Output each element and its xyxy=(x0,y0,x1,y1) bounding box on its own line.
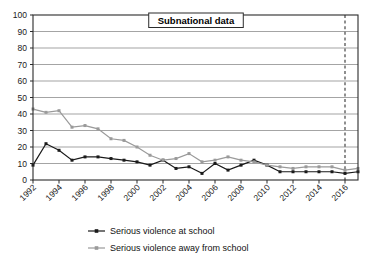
legend-label: Serious violence away from school xyxy=(110,243,249,253)
data-point-marker xyxy=(305,165,308,168)
data-point-marker xyxy=(45,111,48,114)
data-point-marker xyxy=(266,164,269,167)
data-point-marker xyxy=(110,137,113,140)
data-point-marker xyxy=(292,167,295,170)
data-point-marker xyxy=(318,165,321,168)
data-point-marker xyxy=(201,160,204,163)
data-point-marker xyxy=(110,157,113,160)
y-tick-label: 20 xyxy=(18,142,28,152)
data-point-marker xyxy=(214,162,217,165)
y-tick-label: 50 xyxy=(18,93,28,103)
data-point-marker xyxy=(227,169,230,172)
data-point-marker xyxy=(84,124,87,127)
data-point-marker xyxy=(318,170,321,173)
data-point-marker xyxy=(279,170,282,173)
data-point-marker xyxy=(175,157,178,160)
y-tick-label: 70 xyxy=(18,60,28,70)
data-point-marker xyxy=(292,170,295,173)
chart-title-group: Subnational data xyxy=(149,13,244,28)
data-point-marker xyxy=(175,167,178,170)
y-tick-label: 90 xyxy=(18,27,28,37)
data-point-marker xyxy=(188,165,191,168)
y-tick-label: 30 xyxy=(18,126,28,136)
y-tick-label: 0 xyxy=(22,175,27,185)
y-tick-label: 10 xyxy=(18,159,28,169)
legend-label: Serious violence at school xyxy=(110,226,215,236)
data-point-marker xyxy=(45,142,48,145)
data-point-marker xyxy=(58,149,61,152)
legend-item: Serious violence away from school xyxy=(88,243,249,253)
data-point-marker xyxy=(201,172,204,175)
y-tick-label: 80 xyxy=(18,43,28,53)
data-point-marker xyxy=(188,152,191,155)
data-point-marker xyxy=(58,109,61,112)
y-tick-label: 100 xyxy=(13,10,27,20)
data-point-marker xyxy=(123,159,126,162)
data-point-marker xyxy=(279,165,282,168)
legend-marker xyxy=(95,229,99,233)
data-point-marker xyxy=(305,170,308,173)
y-tick-label: 60 xyxy=(18,76,28,86)
data-point-marker xyxy=(344,172,347,175)
data-point-marker xyxy=(240,164,243,167)
y-tick-label: 40 xyxy=(18,109,28,119)
data-point-marker xyxy=(123,139,126,142)
data-point-marker xyxy=(240,159,243,162)
data-point-marker xyxy=(331,165,334,168)
data-point-marker xyxy=(71,159,74,162)
line-chart: 0102030405060708090100 19921994199619982… xyxy=(0,0,391,261)
data-point-marker xyxy=(136,146,139,149)
data-point-marker xyxy=(162,159,165,162)
data-point-marker xyxy=(97,127,100,130)
data-point-marker xyxy=(84,155,87,158)
data-point-marker xyxy=(331,170,334,173)
data-point-marker xyxy=(227,155,230,158)
data-point-marker xyxy=(97,155,100,158)
legend-marker xyxy=(95,246,99,250)
data-point-marker xyxy=(253,160,256,163)
data-point-marker xyxy=(149,154,152,157)
data-point-marker xyxy=(71,126,74,129)
data-point-marker xyxy=(136,160,139,163)
data-point-marker xyxy=(149,164,152,167)
data-point-marker xyxy=(214,159,217,162)
chart-container: 0102030405060708090100 19921994199619982… xyxy=(0,0,391,261)
chart-title: Subnational data xyxy=(158,15,235,26)
data-point-marker xyxy=(344,169,347,172)
